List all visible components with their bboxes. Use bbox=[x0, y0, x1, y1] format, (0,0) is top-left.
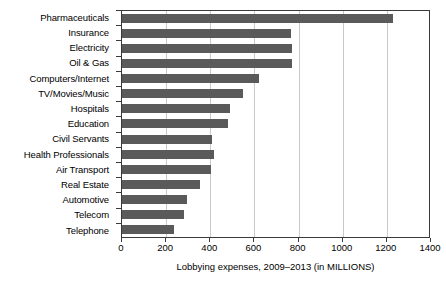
x-axis-caption: Lobbying expenses, 2009–2013 (in MILLION… bbox=[121, 262, 430, 272]
y-tick-slot bbox=[114, 147, 121, 162]
y-tick-slot bbox=[114, 10, 121, 25]
y-tick-slot bbox=[114, 223, 121, 238]
category-label: Computers/Internet bbox=[0, 71, 114, 86]
bar-row bbox=[122, 116, 429, 131]
bar bbox=[122, 119, 228, 128]
category-label: Electricity bbox=[0, 40, 114, 55]
y-tick-slot bbox=[114, 177, 121, 192]
bar bbox=[122, 14, 393, 23]
bar bbox=[122, 180, 200, 189]
category-label: Pharmaceuticals bbox=[0, 10, 114, 25]
bar-row bbox=[122, 162, 429, 177]
plot-area bbox=[121, 10, 430, 238]
y-tick-slot bbox=[114, 25, 121, 40]
bar-row bbox=[122, 71, 429, 86]
category-label: Oil & Gas bbox=[0, 56, 114, 71]
bar bbox=[122, 59, 292, 68]
bar-row bbox=[122, 101, 429, 116]
bar bbox=[122, 150, 214, 159]
x-axis-tick-label: 400 bbox=[201, 243, 217, 253]
y-axis-ticks bbox=[114, 10, 121, 238]
bar-row bbox=[122, 56, 429, 71]
bar bbox=[122, 44, 292, 53]
category-label: Health Professionals bbox=[0, 147, 114, 162]
x-axis-tick-label: 1200 bbox=[375, 243, 396, 253]
bar-row bbox=[122, 147, 429, 162]
bar-chart: Pharmaceuticals Insurance Electricity Oi… bbox=[0, 0, 446, 283]
x-axis-tick-label: 1000 bbox=[331, 243, 352, 253]
bar-row bbox=[122, 41, 429, 56]
category-label: TV/Movies/Music bbox=[0, 86, 114, 101]
x-axis-tick-label: 600 bbox=[245, 243, 261, 253]
category-label: Civil Servants bbox=[0, 132, 114, 147]
bar bbox=[122, 29, 291, 38]
y-tick-slot bbox=[114, 71, 121, 86]
bar-row bbox=[122, 222, 429, 237]
bars-layer bbox=[122, 11, 429, 237]
bar bbox=[122, 225, 174, 234]
bar-row bbox=[122, 132, 429, 147]
y-tick-slot bbox=[114, 162, 121, 177]
category-label: Automotive bbox=[0, 192, 114, 207]
category-label: Insurance bbox=[0, 25, 114, 40]
y-tick-slot bbox=[114, 192, 121, 207]
x-axis-tick-label: 0 bbox=[118, 243, 123, 253]
x-axis-tick-label: 200 bbox=[157, 243, 173, 253]
y-tick-slot bbox=[114, 116, 121, 131]
bar bbox=[122, 210, 184, 219]
bar bbox=[122, 74, 259, 83]
y-tick-slot bbox=[114, 56, 121, 71]
bar-row bbox=[122, 177, 429, 192]
category-label: Real Estate bbox=[0, 177, 114, 192]
x-axis-tick-label: 1400 bbox=[419, 243, 440, 253]
y-tick-slot bbox=[114, 208, 121, 223]
category-label: Telecom bbox=[0, 208, 114, 223]
bar-row bbox=[122, 86, 429, 101]
category-label: Education bbox=[0, 116, 114, 131]
bar-row bbox=[122, 207, 429, 222]
category-label: Hospitals bbox=[0, 101, 114, 116]
bar bbox=[122, 89, 243, 98]
bar-row bbox=[122, 192, 429, 207]
y-tick-slot bbox=[114, 101, 121, 116]
y-tick-slot bbox=[114, 40, 121, 55]
y-tick-slot bbox=[114, 86, 121, 101]
bar bbox=[122, 135, 212, 144]
bar-row bbox=[122, 11, 429, 26]
y-tick-slot bbox=[114, 132, 121, 147]
bar bbox=[122, 195, 187, 204]
bar bbox=[122, 104, 230, 113]
x-axis: 0200400600800100012001400 bbox=[121, 238, 430, 258]
category-axis: Pharmaceuticals Insurance Electricity Oi… bbox=[0, 10, 114, 238]
bar-row bbox=[122, 26, 429, 41]
category-label: Telephone bbox=[0, 223, 114, 238]
x-axis-tick-label: 800 bbox=[290, 243, 306, 253]
category-label: Air Transport bbox=[0, 162, 114, 177]
bar bbox=[122, 165, 211, 174]
